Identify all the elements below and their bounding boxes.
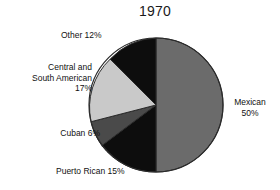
pie-label-cuban: Cuban 6% xyxy=(38,128,100,139)
pie-slice-mexican[interactable] xyxy=(156,38,223,172)
pie-label-mexican: Mexican 50% xyxy=(226,97,274,118)
pie-chart-figure: 1970 Mexican 50% Other 12% Central and S… xyxy=(0,0,280,190)
pie-chart-graphic xyxy=(0,0,280,190)
pie-label-central-south-american: Central and South American 17% xyxy=(2,62,92,94)
pie-slices xyxy=(90,38,223,172)
pie-label-puerto-rican: Puerto Rican 15% xyxy=(56,166,152,177)
pie-label-other: Other 12% xyxy=(61,30,131,41)
